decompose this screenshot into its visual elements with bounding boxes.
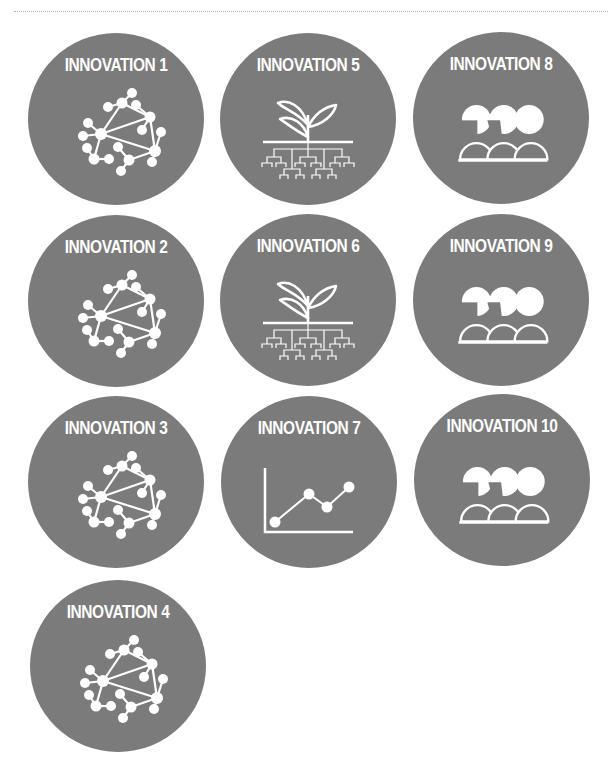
people-group-icon <box>451 266 551 366</box>
people-group-icon <box>452 446 552 546</box>
badge-title: INNOVATION 4 <box>42 602 193 623</box>
plant-roots-icon <box>258 85 358 185</box>
innovation-badge-9[interactable]: INNOVATION 9 <box>413 214 589 386</box>
badge-title: INNOVATION 1 <box>40 55 191 76</box>
badge-title: INNOVATION 10 <box>426 416 577 437</box>
network-icon <box>66 85 166 185</box>
innovation-badge-2[interactable]: INNOVATION 2 <box>28 215 204 387</box>
innovation-badge-5[interactable]: INNOVATION 5 <box>220 33 396 205</box>
innovation-badge-7[interactable]: INNOVATION 7 <box>221 396 397 568</box>
badge-title: INNOVATION 9 <box>425 236 576 257</box>
innovation-badge-3[interactable]: INNOVATION 3 <box>28 396 204 568</box>
innovation-badge-1[interactable]: INNOVATION 1 <box>28 33 204 205</box>
network-icon <box>68 632 168 732</box>
network-icon <box>66 267 166 367</box>
badge-title: INNOVATION 7 <box>233 418 384 439</box>
badge-title: INNOVATION 8 <box>425 54 576 75</box>
innovation-badge-10[interactable]: INNOVATION 10 <box>414 394 590 566</box>
line-chart-icon <box>259 448 359 548</box>
network-icon <box>66 448 166 548</box>
badge-title: INNOVATION 2 <box>40 237 191 258</box>
badge-title: INNOVATION 3 <box>40 418 191 439</box>
people-group-icon <box>451 84 551 184</box>
badge-title: INNOVATION 5 <box>232 55 383 76</box>
header-divider <box>14 11 608 12</box>
innovation-badge-8[interactable]: INNOVATION 8 <box>413 32 589 204</box>
innovation-badge-4[interactable]: INNOVATION 4 <box>30 580 206 752</box>
badge-title: INNOVATION 6 <box>232 236 383 257</box>
page-heading: Innovations <box>14 0 106 4</box>
innovation-badge-6[interactable]: INNOVATION 6 <box>220 214 396 386</box>
plant-roots-icon <box>258 266 358 366</box>
